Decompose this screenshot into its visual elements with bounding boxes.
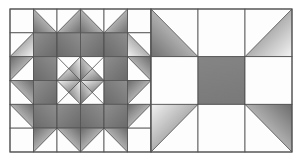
solid-patch <box>81 104 105 128</box>
quilt-block-diagram <box>0 0 302 162</box>
right-quilt-block <box>151 9 292 152</box>
solid-patch <box>104 57 128 81</box>
left-block-cell-r2c6 <box>128 33 152 57</box>
left-block-cell-r6c2 <box>34 128 58 152</box>
left-block-cell-r2c3 <box>57 33 81 57</box>
right-block-cell-r3c3 <box>245 104 292 152</box>
solid-patch <box>34 57 58 81</box>
left-block-cell-r4c5 <box>104 80 128 104</box>
left-block-cell-r1c6 <box>128 9 152 33</box>
left-block-cell-r1c4 <box>81 9 105 33</box>
left-block-cell-r5c4 <box>81 104 105 128</box>
left-block-cell-r4c2 <box>34 80 58 104</box>
left-block-cell-r1c3 <box>57 9 81 33</box>
solid-patch <box>34 104 58 128</box>
right-block-cell-r3c1 <box>151 104 198 152</box>
left-block-cell-r5c2 <box>34 104 58 128</box>
left-block-cell-r4c6 <box>128 80 152 104</box>
quilt-diagram-canvas <box>0 0 302 162</box>
left-block-cell-r5c3 <box>57 104 81 128</box>
left-block-cell-r6c6 <box>128 128 152 152</box>
solid-patch <box>57 104 81 128</box>
right-block-cell-r1c3 <box>245 9 292 57</box>
cell-background <box>128 128 152 152</box>
right-block-cell-r3c2 <box>198 104 245 152</box>
cell-background <box>245 57 292 105</box>
left-block-cell-r2c1 <box>10 33 34 57</box>
left-block-cell-r4c3 <box>57 80 81 104</box>
right-block-cell-r2c1 <box>151 57 198 105</box>
solid-patch <box>104 104 128 128</box>
left-block-cell-r4c1 <box>10 80 34 104</box>
left-block-cell-r1c2 <box>34 9 58 33</box>
left-block-cell-r1c5 <box>104 9 128 33</box>
solid-patch <box>104 33 128 57</box>
left-block-cell-r2c2 <box>34 33 58 57</box>
cell-background <box>10 9 34 33</box>
right-block-cell-r1c2 <box>198 9 245 57</box>
left-block-cell-r3c5 <box>104 57 128 81</box>
left-quilt-block <box>10 9 151 152</box>
left-block-cell-r3c6 <box>128 57 152 81</box>
cell-background <box>10 128 34 152</box>
solid-patch <box>81 33 105 57</box>
left-block-cell-r5c6 <box>128 104 152 128</box>
left-block-cell-r2c5 <box>104 33 128 57</box>
left-block-cell-r5c5 <box>104 104 128 128</box>
solid-patch <box>34 80 58 104</box>
solid-patch <box>57 33 81 57</box>
cell-background <box>128 9 152 33</box>
right-block-cell-r1c1 <box>151 9 198 57</box>
cell-background <box>198 104 245 152</box>
solid-patch <box>34 33 58 57</box>
left-block-cell-r6c5 <box>104 128 128 152</box>
solid-patch <box>198 57 245 105</box>
left-block-cell-r6c4 <box>81 128 105 152</box>
cell-background <box>151 57 198 105</box>
left-block-cell-r3c1 <box>10 57 34 81</box>
solid-patch <box>104 80 128 104</box>
left-block-cell-r6c1 <box>10 128 34 152</box>
left-block-cell-r3c4 <box>81 57 105 81</box>
cell-background <box>198 9 245 57</box>
right-block-cell-r2c3 <box>245 57 292 105</box>
right-block-cell-r2c2 <box>198 57 245 105</box>
left-block-cell-r1c1 <box>10 9 34 33</box>
left-block-cell-r3c3 <box>57 57 81 81</box>
left-block-cell-r6c3 <box>57 128 81 152</box>
left-block-cell-r4c4 <box>81 80 105 104</box>
left-block-cell-r5c1 <box>10 104 34 128</box>
left-block-cell-r3c2 <box>34 57 58 81</box>
left-block-cell-r2c4 <box>81 33 105 57</box>
